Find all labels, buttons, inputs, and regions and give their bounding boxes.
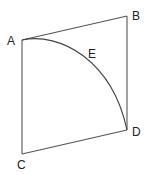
segment-dc: [22, 130, 127, 154]
arc-aed: [22, 39, 127, 130]
point-label-a: A: [7, 34, 15, 48]
point-label-c: C: [17, 158, 26, 172]
point-label-d: D: [132, 125, 141, 139]
geometry-diagram: A B C D E: [0, 0, 148, 175]
segment-ab: [22, 16, 127, 40]
point-label-b: B: [132, 9, 140, 23]
point-label-e: E: [88, 47, 96, 61]
